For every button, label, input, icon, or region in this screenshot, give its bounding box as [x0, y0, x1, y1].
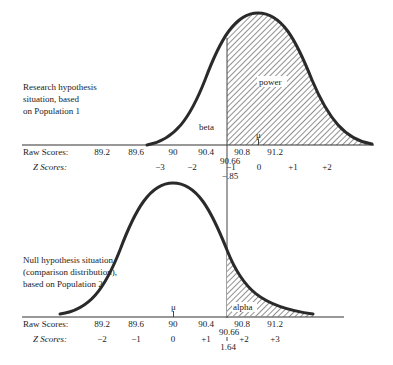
svg-text:+3: +3	[270, 334, 280, 344]
top-mu-label: μ	[256, 130, 261, 140]
alpha-label: alpha	[233, 302, 253, 312]
svg-text:90.4: 90.4	[198, 319, 214, 329]
bottom-cutoff-z: 1.64	[220, 342, 236, 352]
svg-text:−3: −3	[155, 162, 165, 172]
svg-text:0: 0	[257, 162, 262, 172]
power-diagram: Research hypothesis situation, based on …	[0, 0, 393, 365]
svg-text:90.4: 90.4	[198, 147, 214, 157]
svg-text:89.6: 89.6	[128, 319, 144, 329]
top-cutoff-z: −.85	[222, 171, 239, 181]
svg-text:89.2: 89.2	[94, 147, 110, 157]
research-description: Research hypothesis situation, based on …	[23, 82, 99, 116]
bottom-mu-label: μ	[171, 302, 176, 312]
null-curve	[60, 183, 313, 314]
svg-text:89.6: 89.6	[128, 147, 144, 157]
svg-text:+1: +1	[201, 334, 211, 344]
svg-text:+2: +2	[239, 334, 249, 344]
bottom-z-scores-label: Z Scores:	[33, 334, 67, 344]
svg-text:−2: −2	[97, 334, 107, 344]
bottom-raw-scores-label: Raw Scores:	[23, 319, 68, 329]
svg-text:91.2: 91.2	[267, 147, 283, 157]
bottom-z-ticks: −2 −1 0 +1 +2 +3	[97, 334, 280, 344]
svg-text:90: 90	[169, 319, 179, 329]
null-hypothesis-chart: Null hypothesis situation (comparison di…	[22, 183, 344, 352]
svg-text:90: 90	[169, 147, 179, 157]
bottom-raw-ticks: 89.2 89.6 90 90.4 90.8 91.2	[94, 319, 283, 329]
top-raw-ticks: 89.2 89.6 90 90.4 90.8 91.2	[94, 147, 283, 157]
alpha-region	[60, 183, 313, 317]
top-z-scores-label: Z Scores:	[33, 162, 67, 172]
svg-text:−1: −1	[131, 334, 141, 344]
svg-text:89.2: 89.2	[94, 319, 110, 329]
svg-text:−2: −2	[187, 162, 197, 172]
top-z-ticks: −3 −2 −1 0 +1 +2	[155, 162, 332, 172]
power-label: power	[259, 77, 282, 87]
beta-label: beta	[199, 122, 214, 132]
top-raw-scores-label: Raw Scores:	[23, 147, 68, 157]
svg-text:+2: +2	[322, 162, 332, 172]
bottom-cutoff-raw: 90.66	[219, 327, 240, 337]
svg-text:91.2: 91.2	[267, 319, 283, 329]
svg-text:+1: +1	[288, 162, 298, 172]
svg-text:0: 0	[171, 334, 176, 344]
